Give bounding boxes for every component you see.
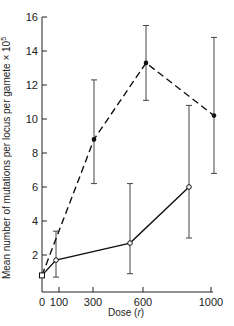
x-tick-label: 1000 (199, 296, 223, 308)
open-circle-marker (128, 241, 133, 246)
x-tick-label: 0 (39, 296, 45, 308)
solid-series-line (42, 187, 189, 275)
open-circle-marker (54, 258, 59, 263)
chart: 246810121416 01003006001000 Dose (r) Mea… (0, 0, 234, 326)
origin-marker (40, 273, 45, 278)
axes (42, 17, 213, 292)
filled-circle-marker (212, 113, 217, 118)
x-tick-label: 100 (50, 296, 68, 308)
y-tick-label: 10 (26, 113, 38, 125)
y-axis-label: Mean number of mutations per locus per g… (0, 37, 12, 279)
filled-circle-marker (92, 137, 97, 142)
y-tick-label: 8 (32, 147, 38, 159)
y-tick-label: 14 (26, 45, 38, 57)
data-markers (40, 61, 217, 278)
y-tick-label: 12 (26, 79, 38, 91)
x-axis-label: Dose (r) (108, 307, 144, 318)
y-tick-label: 16 (26, 11, 38, 23)
y-tick-label: 4 (32, 215, 38, 227)
x-tick-label: 300 (84, 296, 102, 308)
x-axis-ticks: 01003006001000 (39, 287, 223, 308)
y-tick-label: 6 (32, 181, 38, 193)
y-axis-ticks: 246810121416 (26, 11, 47, 261)
open-circle-marker (187, 185, 192, 190)
filled-circle-marker (144, 61, 149, 66)
error-bars (53, 26, 217, 278)
y-tick-label: 2 (32, 249, 38, 261)
